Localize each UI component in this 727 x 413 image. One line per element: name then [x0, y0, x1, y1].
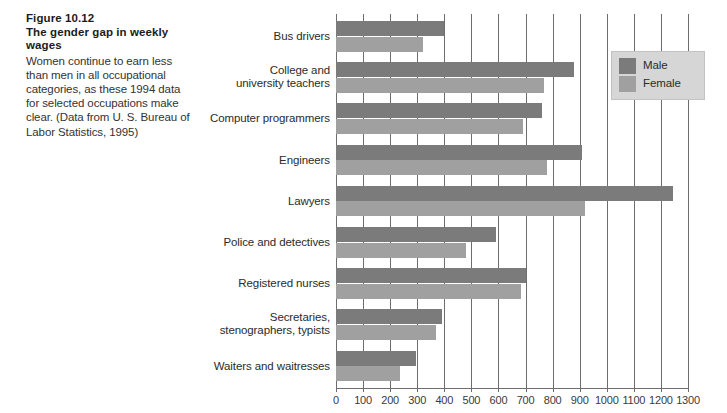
category-label: Waiters and waitresses — [150, 360, 330, 373]
bar-male — [336, 309, 442, 324]
bar-female — [336, 78, 544, 93]
category-label-line: Registered nurses — [150, 277, 330, 290]
bar-male — [336, 21, 444, 36]
x-tick — [498, 388, 499, 392]
category-label: Police and detectives — [150, 236, 330, 249]
bar-female — [336, 366, 400, 381]
bar-male — [336, 351, 416, 366]
category-label: Registered nurses — [150, 277, 330, 290]
category-label-line: Secretaries, — [150, 311, 330, 324]
bar-male — [336, 103, 542, 118]
chart-legend: MaleFemale — [611, 51, 705, 100]
category-label-line: Waiters and waitresses — [150, 360, 330, 373]
bar-female — [336, 119, 523, 134]
bar-female — [336, 201, 585, 216]
x-tick — [417, 388, 418, 392]
x-tick — [336, 388, 337, 392]
category-label: Bus drivers — [150, 30, 330, 43]
x-tick-label: 1300 — [668, 394, 708, 406]
x-tick — [634, 388, 635, 392]
category-label-line: Engineers — [150, 154, 330, 167]
category-label-line: Bus drivers — [150, 30, 330, 43]
bar-female — [336, 160, 547, 175]
bar-male — [336, 145, 582, 160]
x-tick — [390, 388, 391, 392]
category-label: Computer programmers — [150, 112, 330, 125]
category-label-line: Police and detectives — [150, 236, 330, 249]
x-axis-line — [336, 388, 689, 389]
x-tick — [661, 388, 662, 392]
x-tick — [363, 388, 364, 392]
category-label-line: university teachers — [150, 77, 330, 90]
category-label: Secretaries,stenographers, typists — [150, 311, 330, 337]
bar-female — [336, 325, 436, 340]
x-tick — [553, 388, 554, 392]
category-label: Engineers — [150, 154, 330, 167]
category-label: College anduniversity teachers — [150, 64, 330, 90]
x-tick — [444, 388, 445, 392]
x-tick — [580, 388, 581, 392]
bar-female — [336, 37, 423, 52]
category-label-line: Computer programmers — [150, 112, 330, 125]
legend-label: Male — [643, 59, 668, 71]
x-tick — [688, 388, 689, 392]
category-label-line: stenographers, typists — [150, 324, 330, 337]
x-tick — [471, 388, 472, 392]
bar-male — [336, 227, 496, 242]
bar-female — [336, 243, 466, 258]
bar-male — [336, 62, 574, 77]
x-tick — [607, 388, 608, 392]
bar-female — [336, 284, 521, 299]
legend-swatch-male — [619, 58, 636, 74]
bar-male — [336, 268, 526, 283]
category-label-line: Lawyers — [150, 195, 330, 208]
legend-swatch-female — [619, 76, 636, 92]
category-label: Lawyers — [150, 195, 330, 208]
gridline — [607, 14, 608, 388]
bar-male — [336, 186, 673, 201]
legend-label: Female — [643, 77, 681, 89]
category-label-line: College and — [150, 64, 330, 77]
x-tick — [526, 388, 527, 392]
